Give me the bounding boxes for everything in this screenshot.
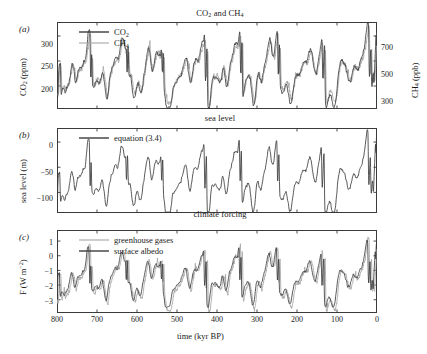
panel-a-title: CO2 and CH4 [130, 8, 310, 18]
xtick-300: 300 [243, 315, 271, 324]
panel-a-ytick-200: 200 [27, 85, 53, 94]
panel-a-ytick-250: 250 [27, 62, 53, 71]
panel-a-ylabel-right: CH4 (ppb) [410, 63, 420, 98]
svg-text:CH4: CH4 [114, 38, 130, 49]
panel-c-plot: greenhouse gasessurface albedo [57, 230, 377, 313]
xtick-600: 600 [123, 315, 151, 324]
xtick-400: 400 [203, 315, 231, 324]
svg-text:greenhouse gases: greenhouse gases [114, 235, 173, 245]
panel-b-title: sea level [130, 113, 310, 123]
panel-b-ytick-0: 0 [27, 141, 53, 150]
panel-a-ytick-right-500: 500 [381, 70, 393, 79]
panel-b-ytick-neg100: −100 [16, 194, 53, 203]
panel-c-ytick-1: 1 [27, 238, 53, 247]
panel-b-plot: equation (3.4) [57, 128, 377, 213]
xtick-0: 0 [363, 315, 391, 324]
svg-text:CO2: CO2 [114, 27, 129, 38]
panel-a-letter: (a) [19, 24, 30, 34]
panel-c-ytick-0: 0 [27, 252, 53, 261]
panel-c-ytick-neg2: −2 [20, 282, 53, 291]
panel-a-ytick-300: 300 [27, 40, 53, 49]
panel-b-ytick-neg50: −50 [20, 168, 53, 177]
figure-paleoclimate: (a) CO2 and CH4 CO2 (ppm) CH4 (ppb) 300 … [0, 0, 427, 354]
xtick-500: 500 [163, 315, 191, 324]
xtick-100: 100 [323, 315, 351, 324]
xtick-700: 700 [83, 315, 111, 324]
panel-c-title: climate forcing [130, 209, 310, 219]
svg-text:surface albedo: surface albedo [114, 246, 163, 256]
panel-a-ytick-right-700: 700 [381, 43, 393, 52]
panel-b-letter: (b) [19, 130, 30, 140]
panel-a-ytick-right-300: 300 [381, 97, 393, 106]
x-axis-label: time (kyr BP) [177, 331, 224, 341]
svg-text:equation (3.4): equation (3.4) [114, 133, 162, 143]
panel-a-plot: CO2CH4 [57, 22, 377, 109]
xtick-800: 800 [43, 315, 71, 324]
xtick-200: 200 [283, 315, 311, 324]
panel-c-ytick-neg1: −1 [20, 267, 53, 276]
panel-c-ytick-neg3: −3 [20, 297, 53, 306]
